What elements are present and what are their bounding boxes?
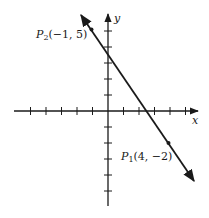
point-p1-label: P1(4, −2) bbox=[120, 150, 172, 164]
point-p1 bbox=[167, 141, 171, 145]
y-axis-label: y bbox=[113, 12, 121, 25]
coordinate-plane: x y P2(−1, 5) P1(4, −2) bbox=[0, 0, 209, 218]
point-p2 bbox=[90, 28, 94, 32]
x-axis-label: x bbox=[192, 114, 199, 127]
point-p2-label: P2(−1, 5) bbox=[35, 28, 87, 42]
